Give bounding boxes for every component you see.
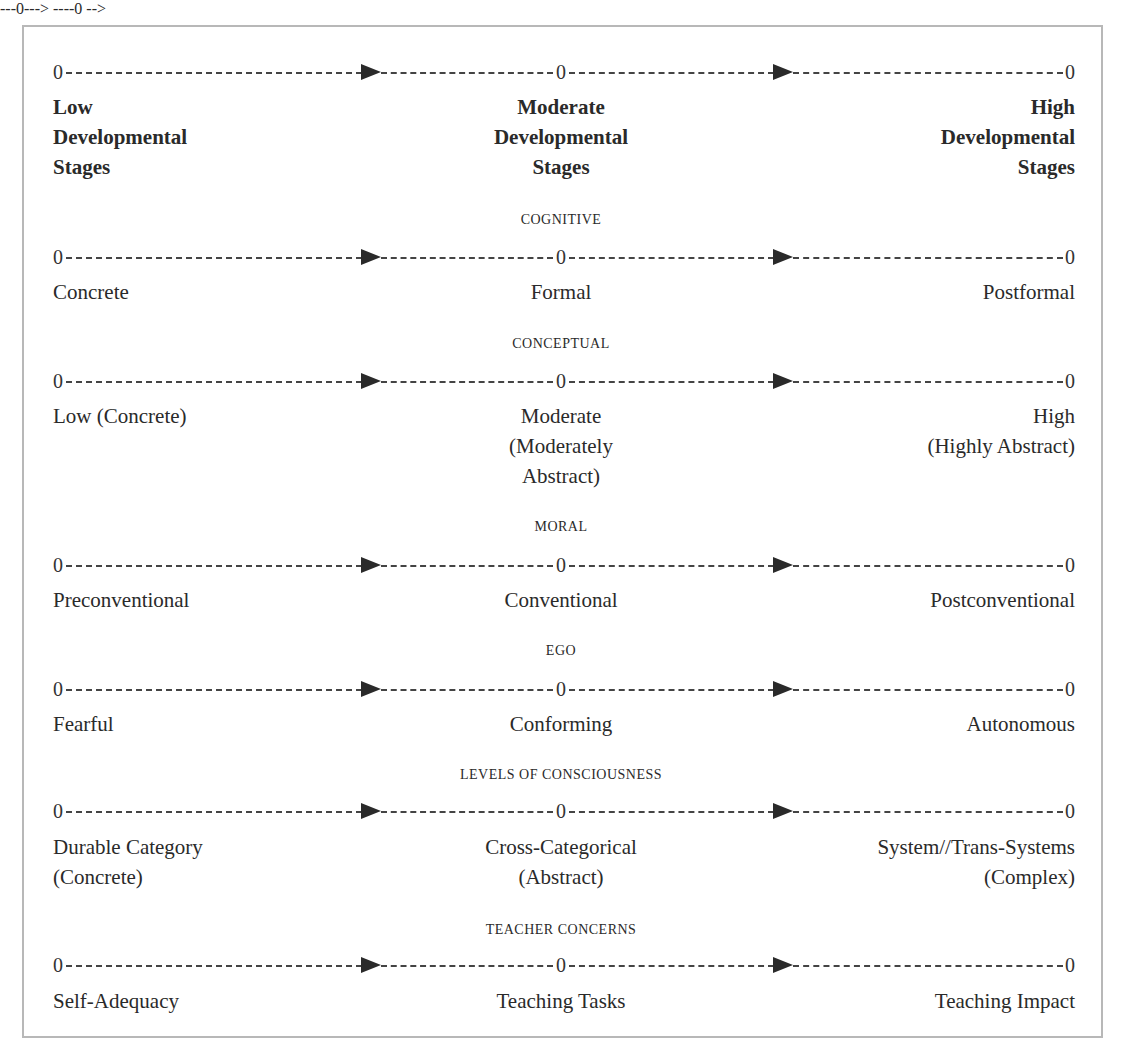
arrow-right-icon bbox=[773, 957, 793, 973]
moral-moderate: Conventional bbox=[361, 585, 761, 615]
arrow-right-icon bbox=[361, 681, 381, 697]
marker-low: 0 bbox=[53, 677, 63, 701]
dash-line bbox=[793, 72, 1063, 74]
consciousness-high: System//Trans-Systems(Complex) bbox=[877, 832, 1075, 892]
dash-line bbox=[66, 811, 362, 813]
dash-line bbox=[793, 565, 1063, 567]
dash-line bbox=[66, 257, 362, 259]
dash-line bbox=[381, 257, 553, 259]
domain-title-moral: MORAL bbox=[361, 519, 761, 535]
dash-line bbox=[381, 965, 553, 967]
consciousness-moderate: Cross-Categorical(Abstract) bbox=[361, 832, 761, 892]
scale-consciousness: 0 0 0 bbox=[53, 799, 1075, 823]
dash-line bbox=[569, 257, 774, 259]
consciousness-low: Durable Category(Concrete) bbox=[53, 832, 203, 892]
marker-moderate: 0 bbox=[556, 799, 566, 823]
arrow-right-icon bbox=[773, 681, 793, 697]
marker-high: 0 bbox=[1065, 369, 1075, 393]
dash-line bbox=[66, 965, 362, 967]
marker-low: 0 bbox=[53, 553, 63, 577]
arrow-right-icon bbox=[361, 557, 381, 573]
arrow-right-icon bbox=[361, 957, 381, 973]
conceptual-moderate: Moderate(ModeratelyAbstract) bbox=[361, 401, 761, 491]
dash-line bbox=[793, 257, 1063, 259]
marker-high: 0 bbox=[1065, 677, 1075, 701]
arrow-right-icon bbox=[361, 249, 381, 265]
marker-high: 0 bbox=[1065, 553, 1075, 577]
domain-title-consciousness: LEVELS OF CONSCIOUSNESS bbox=[361, 767, 761, 783]
teacher-concerns-low: Self-Adequacy bbox=[53, 986, 179, 1016]
cognitive-moderate: Formal bbox=[361, 277, 761, 307]
dash-line bbox=[793, 811, 1063, 813]
header-moderate: ModerateDevelopmentalStages bbox=[361, 92, 761, 182]
dash-line bbox=[66, 72, 362, 74]
dash-line bbox=[381, 565, 553, 567]
dash-line bbox=[569, 689, 774, 691]
arrow-right-icon bbox=[361, 64, 381, 80]
dash-line bbox=[569, 381, 774, 383]
marker-low: 0 bbox=[53, 799, 63, 823]
ego-moderate: Conforming bbox=[361, 709, 761, 739]
arrow-right-icon bbox=[361, 373, 381, 389]
domain-title-ego: EGO bbox=[361, 643, 761, 659]
ego-low: Fearful bbox=[53, 709, 114, 739]
dash-line bbox=[66, 565, 362, 567]
header-low: LowDevelopmentalStages bbox=[53, 92, 187, 182]
scale-conceptual: 0 0 0 bbox=[53, 369, 1075, 393]
scale-teacher-concerns: 0 0 0 bbox=[53, 953, 1075, 977]
dash-line bbox=[381, 381, 553, 383]
conceptual-low: Low (Concrete) bbox=[53, 401, 187, 431]
arrow-right-icon bbox=[773, 64, 793, 80]
marker-moderate: 0 bbox=[556, 677, 566, 701]
marker-low: 0 bbox=[53, 60, 63, 84]
teacher-concerns-moderate: Teaching Tasks bbox=[361, 986, 761, 1016]
marker-low: 0 bbox=[53, 369, 63, 393]
arrow-right-icon bbox=[773, 373, 793, 389]
scale-cognitive: 0 0 0 bbox=[53, 245, 1075, 269]
marker-moderate: 0 bbox=[556, 953, 566, 977]
teacher-concerns-high: Teaching Impact bbox=[935, 986, 1075, 1016]
cognitive-high: Postformal bbox=[983, 277, 1075, 307]
domain-title-conceptual: CONCEPTUAL bbox=[361, 336, 761, 352]
domain-title-teacher-concerns: TEACHER CONCERNS bbox=[361, 922, 761, 938]
dash-line bbox=[793, 689, 1063, 691]
conceptual-high: High(Highly Abstract) bbox=[927, 401, 1075, 461]
marker-high: 0 bbox=[1065, 60, 1075, 84]
domain-title-cognitive: COGNITIVE bbox=[361, 212, 761, 228]
dash-line bbox=[793, 965, 1063, 967]
marker-moderate: 0 bbox=[556, 60, 566, 84]
dash-line bbox=[569, 965, 774, 967]
dash-line bbox=[66, 689, 362, 691]
moral-high: Postconventional bbox=[930, 585, 1075, 615]
marker-moderate: 0 bbox=[556, 245, 566, 269]
arrow-right-icon bbox=[773, 249, 793, 265]
arrow-right-icon bbox=[361, 803, 381, 819]
scale-moral: 0 0 0 bbox=[53, 553, 1075, 577]
dash-line bbox=[381, 811, 553, 813]
arrow-right-icon bbox=[773, 803, 793, 819]
dash-line bbox=[569, 811, 774, 813]
ego-high: Autonomous bbox=[966, 709, 1075, 739]
header-high: HighDevelopmentalStages bbox=[941, 92, 1075, 182]
dash-line bbox=[569, 565, 774, 567]
marker-low: 0 bbox=[53, 953, 63, 977]
dash-line bbox=[793, 381, 1063, 383]
cognitive-low: Concrete bbox=[53, 277, 129, 307]
moral-low: Preconventional bbox=[53, 585, 189, 615]
dash-line bbox=[381, 689, 553, 691]
marker-high: 0 bbox=[1065, 953, 1075, 977]
marker-high: 0 bbox=[1065, 245, 1075, 269]
marker-high: 0 bbox=[1065, 799, 1075, 823]
scale-header: 0 0 0 bbox=[53, 60, 1075, 84]
marker-moderate: 0 bbox=[556, 553, 566, 577]
dash-line bbox=[66, 381, 362, 383]
dash-line bbox=[569, 72, 774, 74]
arrow-right-icon bbox=[773, 557, 793, 573]
dash-line bbox=[381, 72, 553, 74]
marker-low: 0 bbox=[53, 245, 63, 269]
scale-ego: 0 0 0 bbox=[53, 677, 1075, 701]
marker-moderate: 0 bbox=[556, 369, 566, 393]
